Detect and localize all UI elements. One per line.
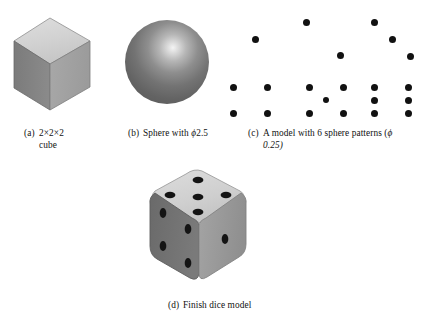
panel-sphere-patterns	[222, 14, 426, 122]
pattern-dot	[303, 19, 310, 26]
dice-pip	[222, 234, 229, 244]
dice-pip	[193, 209, 204, 216]
figure-container: (a)2×2×2 cube (b)Sphere with ϕ2.5	[0, 0, 426, 320]
pattern-dot	[252, 36, 259, 43]
dice-pip	[160, 208, 167, 218]
dice-pip	[193, 194, 204, 201]
pattern-dot	[389, 36, 396, 43]
caption-c-label: (c)	[248, 128, 263, 140]
pattern-dot	[407, 53, 414, 60]
phi-symbol-c: ϕ	[388, 128, 393, 138]
dice-pip	[185, 258, 192, 268]
pattern-dot	[371, 97, 378, 104]
dice-pip	[193, 177, 204, 184]
pattern-dot	[405, 97, 412, 104]
caption-a-label: (a)	[24, 128, 39, 140]
dice-pip	[165, 192, 176, 199]
pattern-dot	[306, 110, 313, 117]
dice-pip	[160, 241, 167, 251]
isometric-cube-graphic	[8, 12, 108, 120]
shaded-sphere-graphic	[125, 20, 209, 104]
caption-d: (d)Finish dice model	[168, 300, 328, 312]
pattern-dot	[264, 110, 271, 117]
pattern-dot	[306, 84, 313, 91]
pattern-dot	[264, 84, 271, 91]
dice-pip	[185, 224, 192, 234]
pattern-dot	[323, 97, 329, 103]
caption-b-value: 2.5	[196, 128, 208, 138]
pattern-dot	[340, 84, 347, 91]
caption-c-text: A model with 6 sphere patterns (	[263, 128, 388, 138]
pattern-dot	[230, 110, 237, 117]
pattern-dot	[337, 52, 344, 59]
caption-d-label: (d)	[168, 300, 183, 312]
caption-a-text: 2×2×2	[39, 128, 64, 138]
pattern-dot	[371, 84, 378, 91]
caption-c-text-2: 0.25)	[263, 140, 420, 152]
caption-b-label: (b)	[128, 128, 143, 140]
caption-b-text: Sphere with	[143, 128, 189, 138]
caption-d-text: Finish dice model	[183, 300, 251, 310]
pattern-dot	[371, 19, 378, 26]
caption-a-text-2: cube	[39, 140, 120, 152]
pattern-dot	[230, 84, 237, 91]
pattern-dot	[405, 84, 412, 91]
pattern-dot	[340, 110, 347, 117]
dice-right-pips	[222, 234, 229, 244]
caption-b: (b)Sphere with ϕ2.5	[128, 128, 240, 140]
panel-finished-dice	[128, 160, 308, 295]
panel-cube	[8, 12, 108, 120]
dice-graphic	[128, 160, 308, 295]
caption-a: (a)2×2×2 cube	[24, 128, 120, 151]
pattern-dot	[405, 110, 412, 117]
caption-c: (c)A model with 6 sphere patterns (ϕ 0.2…	[248, 128, 420, 151]
dice-pip	[221, 192, 232, 199]
panel-sphere	[118, 14, 218, 114]
pattern-dot	[371, 110, 378, 117]
